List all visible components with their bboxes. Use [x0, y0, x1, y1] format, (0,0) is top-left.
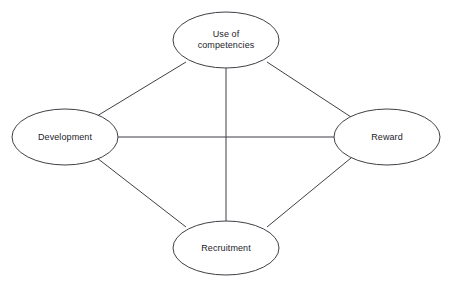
edge-use-of-competencies-reward	[267, 62, 351, 117]
node-ellipse-use-of-competencies[interactable]	[173, 12, 279, 68]
diagram-canvas	[0, 0, 449, 288]
edge-reward-recruitment	[267, 158, 351, 227]
edge-development-use-of-competencies	[97, 62, 186, 116]
node-ellipse-reward[interactable]	[334, 109, 440, 165]
edge-development-recruitment	[97, 158, 186, 227]
competency-diagram: Use of competenciesDevelopmentRewardRecr…	[0, 0, 449, 288]
edges-group	[97, 62, 351, 227]
node-ellipse-recruitment[interactable]	[173, 221, 279, 275]
node-ellipse-development[interactable]	[12, 109, 118, 165]
